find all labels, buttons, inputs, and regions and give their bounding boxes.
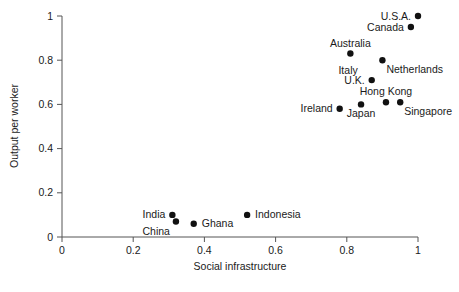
y-axis-title: Output per worker (8, 83, 20, 168)
data-point-label: India (143, 208, 166, 220)
scatter-chart: 00.20.40.60.81 00.20.40.60.81 U.S.A.Cana… (0, 0, 459, 292)
y-tick-label: 0.2 (38, 186, 53, 198)
x-tick-label: 0.4 (197, 244, 212, 256)
data-point-label: China (142, 225, 170, 237)
data-point-label: Indonesia (255, 208, 301, 220)
data-point-label: Australia (330, 37, 371, 49)
data-point-marker (347, 50, 353, 56)
x-tick-label: 0 (59, 244, 65, 256)
data-point-marker (408, 24, 414, 30)
y-tick-label: 0.6 (38, 98, 53, 110)
x-tick-label: 0.2 (126, 244, 141, 256)
x-axis-ticks: 00.20.40.60.81 (59, 237, 421, 256)
x-axis-title: Social infrastructure (194, 260, 287, 272)
y-tick-label: 0.4 (38, 142, 53, 154)
data-point-marker (383, 99, 389, 105)
data-point-marker (191, 221, 197, 227)
data-point-group: U.S.A.CanadaAustraliaNetherlandsItalyU.K… (142, 10, 452, 237)
data-point-label: Hong Kong (360, 85, 413, 97)
x-tick-label: 0.8 (339, 244, 354, 256)
data-point-marker (415, 13, 421, 19)
data-point-label: U.K. (344, 74, 364, 86)
data-point-marker (169, 212, 175, 218)
data-point-label: Canada (367, 21, 404, 33)
x-tick-label: 0.6 (268, 244, 283, 256)
data-point-label: Netherlands (386, 63, 443, 75)
data-point-label: Ghana (202, 217, 234, 229)
y-axis-ticks: 00.20.40.60.81 (38, 10, 62, 243)
y-tick-label: 1 (47, 10, 53, 22)
y-tick-label: 0 (47, 231, 53, 243)
data-point-marker (369, 77, 375, 83)
data-point-marker (336, 106, 342, 112)
data-point-label: Singapore (404, 105, 452, 117)
data-point-marker (397, 99, 403, 105)
data-point-marker (244, 212, 250, 218)
data-point-marker (379, 57, 385, 63)
data-point-label: Ireland (301, 102, 333, 114)
plot-area: 00.20.40.60.81 00.20.40.60.81 U.S.A.Cana… (0, 0, 459, 292)
data-point-label: Japan (347, 107, 376, 119)
x-tick-label: 1 (415, 244, 421, 256)
data-point-marker (173, 218, 179, 224)
y-tick-label: 0.8 (38, 54, 53, 66)
